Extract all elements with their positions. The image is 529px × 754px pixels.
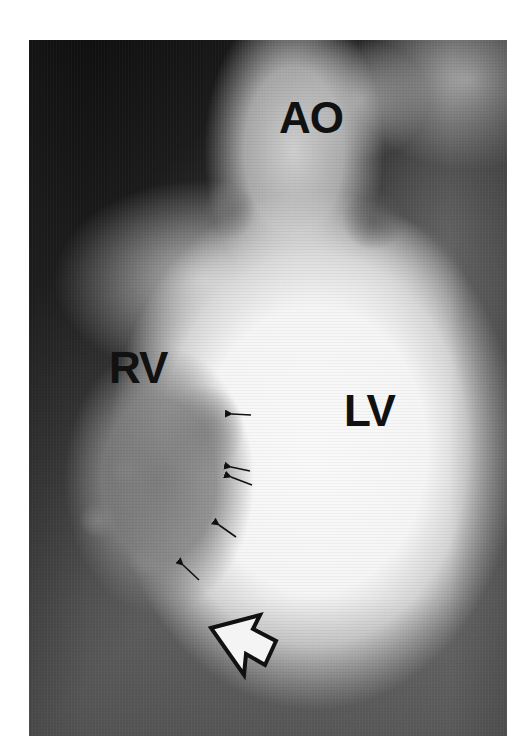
open-arrow-icon <box>211 615 276 675</box>
small-arrow-icon <box>232 414 251 415</box>
annotation-overlay <box>0 0 529 754</box>
small-arrow-icon <box>219 525 236 537</box>
small-arrows-group <box>183 414 252 580</box>
small-arrow-icon <box>183 565 199 580</box>
small-arrow-icon <box>231 477 252 485</box>
small-arrow-icon <box>231 467 250 471</box>
